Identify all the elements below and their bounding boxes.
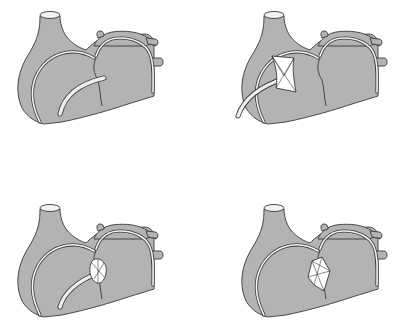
panel-4 <box>242 205 387 318</box>
panel-3 <box>18 205 163 318</box>
panel-2 <box>238 12 387 125</box>
collapsed-occluder <box>90 259 106 283</box>
heart-outline <box>18 205 163 318</box>
panel-1 <box>18 12 163 125</box>
septal-occluder-diagram <box>0 0 406 331</box>
heart-outline <box>18 12 163 125</box>
heart-outline <box>242 12 387 125</box>
